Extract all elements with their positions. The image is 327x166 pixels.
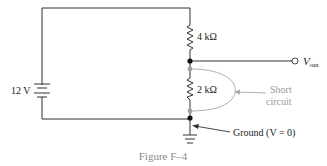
figure-caption: Figure F–4 <box>139 150 188 162</box>
short-circuit-label-line2: circuit <box>266 96 292 107</box>
resistor-2k-icon <box>187 78 193 100</box>
ground-arrow-icon <box>192 124 230 132</box>
resistor-4k-icon <box>187 25 193 50</box>
resistor-2k-label: 2 kΩ <box>197 84 217 95</box>
vout-label: Vout <box>303 55 319 69</box>
node-vout-dot <box>187 58 192 63</box>
bottom-wire <box>42 97 190 119</box>
wires <box>42 8 292 135</box>
battery-icon <box>34 84 50 97</box>
resistor-4k-label: 4 kΩ <box>197 31 217 42</box>
node-ground-dot <box>187 115 192 120</box>
short-circuit-label-line1: Short <box>270 84 292 95</box>
ground-label: Ground (V = 0) <box>233 127 295 139</box>
node-short-bottom-dot <box>188 109 193 114</box>
ground-icon <box>183 135 197 143</box>
top-wire <box>42 8 190 85</box>
circuit-diagram: 12 V 4 kΩ 2 kΩ Vout Short circuit Ground… <box>0 0 327 166</box>
node-short-top-dot <box>188 67 193 72</box>
short-circuit-arrow-icon <box>234 90 266 95</box>
source-label: 12 V <box>11 85 31 96</box>
vout-terminal-icon <box>292 58 298 64</box>
